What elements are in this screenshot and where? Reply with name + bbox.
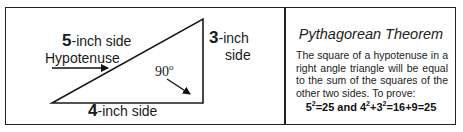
right-angle-arrow-icon — [167, 79, 190, 94]
panel-title: Pythagorean Theorem — [286, 26, 456, 42]
theorem-panel: Pythagorean Theorem The square of a hypo… — [286, 7, 456, 125]
vertical-side-label: 3-inch — [209, 30, 249, 46]
vertical-side-label-line2: side — [225, 47, 251, 63]
hypotenuse-length-label: 5-inch side — [62, 33, 131, 49]
base-side-label: 4-inch side — [88, 103, 157, 119]
hypotenuse-name-label: Hypotenuse — [45, 50, 120, 66]
proof-formula: 52=25 and 42+32=16+9=25 — [286, 101, 456, 113]
right-angle-label: 90o — [155, 62, 174, 80]
theorem-description: The square of a hypotenuse in a right an… — [296, 49, 448, 99]
